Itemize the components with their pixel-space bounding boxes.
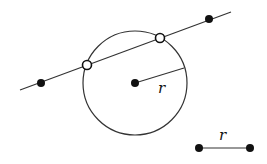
intersection-point-right — [156, 34, 165, 43]
line-point-left — [37, 79, 45, 87]
geometry-diagram: r r — [0, 0, 267, 164]
segment-endpoint-right — [246, 144, 254, 152]
secant-line — [20, 12, 231, 90]
radius-label: r — [158, 79, 166, 97]
segment-label: r — [219, 126, 227, 144]
circle-center-point — [131, 79, 139, 87]
segment-endpoint-left — [195, 144, 203, 152]
intersection-point-left — [83, 61, 92, 70]
line-point-right — [205, 15, 213, 23]
